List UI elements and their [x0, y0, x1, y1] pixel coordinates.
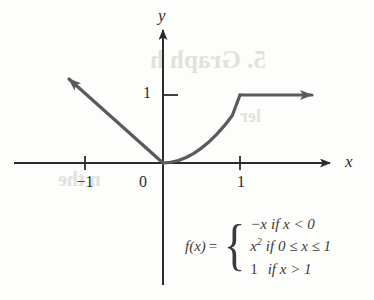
case-row: x2if 0 ≤ x ≤ 1 [250, 236, 331, 256]
case-row: −xif x < 0 [250, 214, 331, 234]
case-exponent: 2 [257, 236, 262, 247]
case-expression: 1 [250, 261, 258, 277]
equals-sign: = [209, 238, 217, 255]
case-condition: if x < 0 [271, 216, 315, 232]
x-tick-label-minus-1: −1 [70, 173, 100, 191]
case-condition: if 0 ≤ x ≤ 1 [266, 238, 331, 254]
case-expression: x [250, 238, 257, 254]
branch-x-squared [163, 95, 240, 163]
case-row: 1if x > 1 [250, 259, 331, 279]
function-curve-group [69, 79, 312, 163]
function-name: f(x) [185, 238, 206, 255]
piecewise-formula: f(x) = { −xif x < 0 x2if 0 ≤ x ≤ 1 1if x… [185, 214, 331, 279]
y-axis-label: y [158, 6, 166, 26]
origin-label: 0 [133, 173, 153, 191]
y-tick-label-1: 1 [138, 84, 156, 102]
piecewise-function-figure: 5. Graph h n the ler y x −1 [0, 0, 374, 300]
case-condition: if x > 1 [268, 261, 312, 277]
case-brace: { [224, 223, 246, 269]
x-axis-label: x [345, 152, 353, 172]
case-list: −xif x < 0 x2if 0 ≤ x ≤ 1 1if x > 1 [250, 214, 331, 279]
case-expression: −x [250, 216, 267, 232]
x-tick-label-1: 1 [231, 173, 251, 191]
